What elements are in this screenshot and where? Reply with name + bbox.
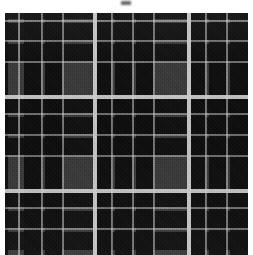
tartan-cloth [5, 13, 248, 255]
shading-vignette-layer [5, 13, 248, 255]
scan-smudge-artifact [121, 1, 131, 5]
swatch-white-border [0, 8, 253, 255]
tartan-swatch-canvas [0, 0, 253, 255]
